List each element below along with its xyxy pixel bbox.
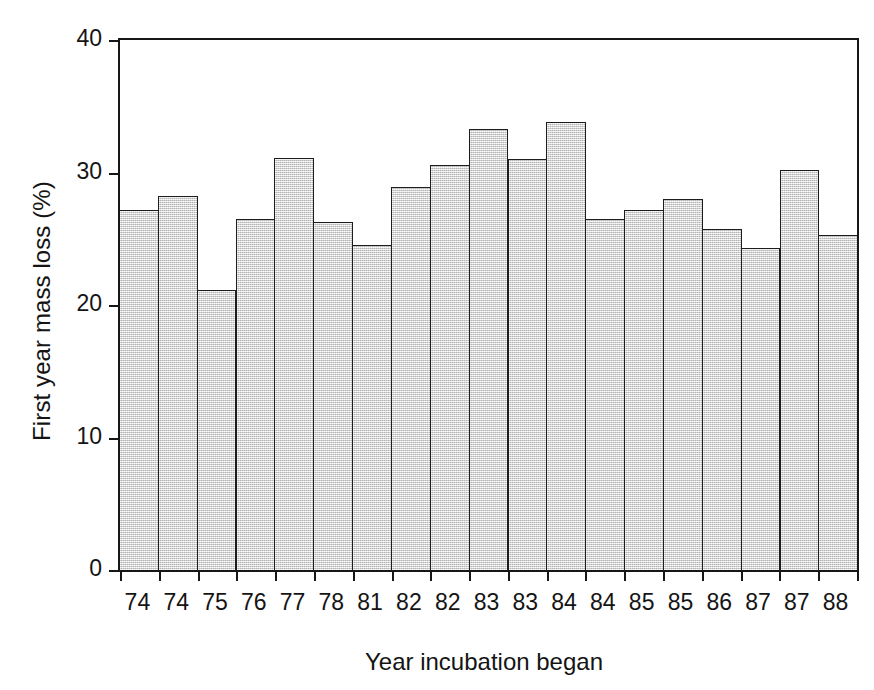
y-tick-label: 0 bbox=[89, 557, 102, 580]
x-tick bbox=[508, 570, 510, 581]
x-tick bbox=[392, 570, 394, 581]
x-tick-label: 78 bbox=[309, 591, 353, 614]
x-tick-label: 74 bbox=[154, 591, 198, 614]
x-tick-label: 88 bbox=[814, 591, 858, 614]
x-tick bbox=[120, 570, 122, 581]
y-tick: 0 bbox=[109, 570, 120, 572]
bar bbox=[430, 165, 470, 570]
plot-area: 010203040 bbox=[118, 38, 859, 572]
x-tick bbox=[857, 570, 859, 581]
bar bbox=[624, 210, 664, 570]
x-axis-title: Year incubation began bbox=[113, 648, 855, 676]
bar bbox=[197, 290, 237, 570]
bar-series bbox=[120, 40, 857, 570]
y-tick-label: 30 bbox=[76, 160, 102, 183]
x-tick-label: 87 bbox=[736, 591, 780, 614]
bar bbox=[469, 129, 509, 570]
x-tick bbox=[741, 570, 743, 581]
bar bbox=[702, 229, 742, 570]
bar bbox=[780, 170, 820, 570]
x-tick-label: 86 bbox=[697, 591, 741, 614]
y-tick: 10 bbox=[109, 438, 120, 440]
x-tick bbox=[314, 570, 316, 581]
x-tick bbox=[159, 570, 161, 581]
bar bbox=[120, 210, 159, 570]
bar bbox=[585, 219, 625, 570]
bar bbox=[508, 159, 548, 570]
x-tick bbox=[198, 570, 200, 581]
x-tick bbox=[585, 570, 587, 581]
x-tick bbox=[702, 570, 704, 581]
x-tick-label: 82 bbox=[387, 591, 431, 614]
x-tick-label: 81 bbox=[348, 591, 392, 614]
y-tick: 20 bbox=[109, 305, 120, 307]
bar bbox=[313, 222, 353, 570]
x-tick-label: 85 bbox=[658, 591, 702, 614]
x-tick-label: 84 bbox=[542, 591, 586, 614]
chart-figure: First year mass loss (%) 010203040 74747… bbox=[0, 0, 874, 690]
x-tick bbox=[624, 570, 626, 581]
bar bbox=[546, 122, 586, 570]
x-tick-label: 87 bbox=[775, 591, 819, 614]
x-tick bbox=[547, 570, 549, 581]
x-tick-label: 77 bbox=[271, 591, 315, 614]
y-tick-label: 20 bbox=[76, 292, 102, 315]
x-tick-label: 76 bbox=[232, 591, 276, 614]
bar bbox=[818, 235, 857, 570]
x-tick bbox=[469, 570, 471, 581]
x-tick-label: 82 bbox=[426, 591, 470, 614]
y-tick-label: 10 bbox=[76, 425, 102, 448]
x-tick-label: 83 bbox=[503, 591, 547, 614]
x-tick bbox=[663, 570, 665, 581]
bar bbox=[236, 219, 276, 570]
x-tick-label: 83 bbox=[465, 591, 509, 614]
bar bbox=[158, 196, 198, 570]
x-tick bbox=[353, 570, 355, 581]
x-tick-label: 75 bbox=[193, 591, 237, 614]
y-tick: 30 bbox=[109, 173, 120, 175]
bar bbox=[741, 248, 781, 570]
x-tick bbox=[818, 570, 820, 581]
y-axis-title: First year mass loss (%) bbox=[28, 101, 56, 521]
x-tick-label: 84 bbox=[581, 591, 625, 614]
bar bbox=[663, 199, 703, 570]
x-tick bbox=[430, 570, 432, 581]
bar bbox=[274, 158, 314, 570]
y-tick-label: 40 bbox=[76, 27, 102, 50]
x-tick-label: 85 bbox=[620, 591, 664, 614]
y-tick: 40 bbox=[109, 40, 120, 42]
x-tick-label: 74 bbox=[115, 591, 159, 614]
x-tick bbox=[236, 570, 238, 581]
bar bbox=[352, 245, 392, 570]
bar bbox=[391, 187, 431, 570]
x-tick bbox=[779, 570, 781, 581]
x-tick bbox=[275, 570, 277, 581]
